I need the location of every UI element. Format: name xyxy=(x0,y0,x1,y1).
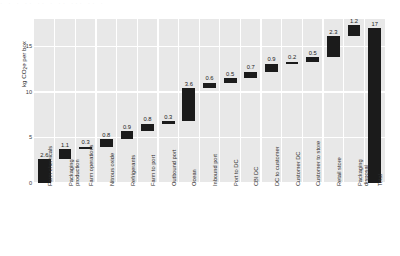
bar-value-label: 0.8 xyxy=(94,132,118,138)
waterfall-bar xyxy=(182,88,195,121)
waterfall-bar xyxy=(265,64,278,72)
x-axis-tick-label: Customer DC xyxy=(295,152,301,186)
x-axis-tick-label: Inbound port xyxy=(212,154,218,186)
waterfall-bar xyxy=(100,139,113,146)
top-clipped-artifact: · · · ·· ·· · ·· ··· ·· · xyxy=(0,0,400,12)
gridline-vertical xyxy=(137,19,138,183)
waterfall-bar xyxy=(327,36,340,57)
gridline-vertical xyxy=(240,19,241,183)
y-axis-tick-label: 0 xyxy=(6,180,32,186)
gridline-horizontal xyxy=(34,137,385,138)
gridline-horizontal xyxy=(34,91,385,92)
waterfall-bar xyxy=(286,62,299,64)
gridline-vertical xyxy=(116,19,117,183)
y-axis-tick-label: 5 xyxy=(6,134,32,140)
x-axis-tick-label: Nitrous oxide xyxy=(109,153,115,186)
gridline-horizontal xyxy=(34,182,385,183)
waterfall-bar xyxy=(306,57,319,62)
y-axis-title: kg CO2e per box xyxy=(20,9,28,119)
x-axis-tick-label: Customer to store xyxy=(315,141,321,186)
gridline-vertical xyxy=(54,19,55,183)
bar-value-label: 3.6 xyxy=(177,81,201,87)
gridline-vertical xyxy=(343,19,344,183)
x-axis-tick-label: Packagingdisposal xyxy=(357,159,370,186)
gridline-vertical xyxy=(364,19,365,183)
total-bar xyxy=(368,28,381,183)
x-axis-tick-label: Outbound port xyxy=(171,150,177,186)
y-axis-tick-label: 15 xyxy=(6,43,32,49)
bar-value-label: 2.3 xyxy=(321,29,345,35)
gridline-vertical xyxy=(75,19,76,183)
gridline-vertical xyxy=(95,19,96,183)
x-axis-tick-label: Refrigerants xyxy=(130,155,136,186)
gridline-vertical xyxy=(281,19,282,183)
bar-value-label: 0.3 xyxy=(156,114,180,120)
y-axis-title-subscript: 2 xyxy=(23,67,28,70)
gridline-vertical xyxy=(199,19,200,183)
waterfall-bar xyxy=(121,131,134,139)
y-axis-title-text: kg CO xyxy=(20,69,27,87)
x-axis-tick-label: Port to DC xyxy=(233,159,239,186)
gridline-vertical xyxy=(260,19,261,183)
x-axis-tick-label: Farm to port xyxy=(150,155,156,186)
x-axis-tick-label: Farm operations xyxy=(88,145,94,186)
waterfall-bar xyxy=(244,72,257,78)
bar-value-label: 0.5 xyxy=(218,71,242,77)
gridline-vertical xyxy=(157,19,158,183)
x-axis-tick-label: Farm chemicals xyxy=(47,146,53,186)
gridline-vertical xyxy=(178,19,179,183)
plot-area: 2.61.10.30.80.90.80.33.60.60.50.70.90.20… xyxy=(34,19,385,183)
x-axis-tick-label: CBI DC xyxy=(253,167,259,186)
x-axis-tick-label: DC to customer xyxy=(274,146,280,186)
waterfall-bar xyxy=(141,124,154,131)
x-axis-tick-label: Total xyxy=(377,174,383,186)
gridline-vertical xyxy=(219,19,220,183)
waterfall-bar xyxy=(59,149,72,159)
waterfall-bar xyxy=(348,25,361,36)
x-axis-tick-label: Retail store xyxy=(336,157,342,186)
x-axis-tick-label: Packagingproduction xyxy=(68,159,81,186)
y-axis-tick-label: 10 xyxy=(6,89,32,95)
waterfall-chart-figure: · · · ·· ·· · ·· ··· ·· · kg CO2e per bo… xyxy=(0,0,400,256)
gridline-vertical xyxy=(322,19,323,183)
bar-value-label: 0.5 xyxy=(301,50,325,56)
waterfall-bar xyxy=(224,78,237,83)
waterfall-bar xyxy=(162,121,175,124)
bar-value-label: 0.7 xyxy=(239,64,263,70)
x-axis-tick-label: Ocean xyxy=(191,169,197,186)
bar-value-label: 0.9 xyxy=(115,124,139,130)
gridline-vertical xyxy=(302,19,303,183)
bar-value-label: 17 xyxy=(363,21,387,27)
waterfall-bar xyxy=(203,83,216,88)
